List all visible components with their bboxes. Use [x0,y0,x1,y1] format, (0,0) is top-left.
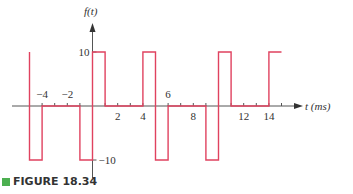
waveform-line [30,52,282,160]
svg-text:14: 14 [263,110,275,122]
figure-caption: FIGURE 18.34 [2,175,97,188]
waveform-plot: −4−22468121410−10 f(t) t (ms) [0,0,353,194]
svg-text:−10: −10 [99,154,117,166]
svg-text:12: 12 [238,110,249,122]
axes [12,23,303,178]
svg-text:2: 2 [115,110,121,122]
svg-text:8: 8 [191,110,197,122]
svg-text:10: 10 [79,46,91,58]
svg-text:6: 6 [165,88,171,100]
y-axis-label: f(t) [84,5,98,18]
svg-text:−2: −2 [61,88,73,100]
x-axis-label: t (ms) [305,100,331,113]
svg-text:4: 4 [140,110,146,122]
caption-marker [2,178,10,186]
caption-text: FIGURE 18.34 [13,175,97,188]
svg-text:−4: −4 [36,88,48,100]
